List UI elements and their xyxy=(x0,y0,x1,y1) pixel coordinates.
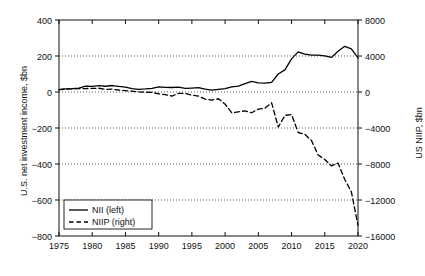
chart-figure: U.S. net investment income, $bn US NIIP,… xyxy=(0,0,425,276)
x-tick-label: 2010 xyxy=(282,241,302,251)
y-right-tick-label: −8000 xyxy=(365,160,390,170)
x-tick-label: 1985 xyxy=(115,241,135,251)
y-left-tick-label: −800 xyxy=(32,232,52,242)
y-axis-left-ticks: 4002000−200−400−600−800 xyxy=(32,16,59,242)
y-left-tick-label: 0 xyxy=(47,88,52,98)
series-line-nii xyxy=(59,46,358,90)
y-right-tick-label: −4000 xyxy=(365,124,390,134)
y-right-tick-label: 4000 xyxy=(365,52,385,62)
chart-legend: NII (left)NIIP (right) xyxy=(64,200,152,229)
y-right-tick-label: −16000 xyxy=(365,232,395,242)
legend-label: NIIP (right) xyxy=(92,217,135,227)
x-tick-label: 2000 xyxy=(215,241,235,251)
y-right-tick-label: −12000 xyxy=(365,196,395,206)
gridlines xyxy=(59,56,358,200)
x-tick-label: 2020 xyxy=(348,241,368,251)
y-left-tick-label: 200 xyxy=(37,52,52,62)
y-left-tick-label: 400 xyxy=(37,16,52,26)
x-tick-label: 1990 xyxy=(149,241,169,251)
legend-label: NII (left) xyxy=(92,205,124,215)
x-tick-label: 1975 xyxy=(49,241,69,251)
x-tick-label: 1980 xyxy=(82,241,102,251)
y-left-tick-label: −400 xyxy=(32,160,52,170)
plot-area: 1975198019851990199520002005201020152020… xyxy=(0,0,425,276)
x-tick-label: 1995 xyxy=(182,241,202,251)
data-series-layer xyxy=(59,46,358,225)
x-tick-label: 2005 xyxy=(248,241,268,251)
x-tick-label: 2015 xyxy=(315,241,335,251)
y-right-tick-label: 8000 xyxy=(365,16,385,26)
y-left-tick-label: −600 xyxy=(32,196,52,206)
y-left-tick-label: −200 xyxy=(32,124,52,134)
y-axis-right-ticks: 800040000−4000−8000−12000−16000 xyxy=(358,16,395,242)
y-right-tick-label: 0 xyxy=(365,88,370,98)
